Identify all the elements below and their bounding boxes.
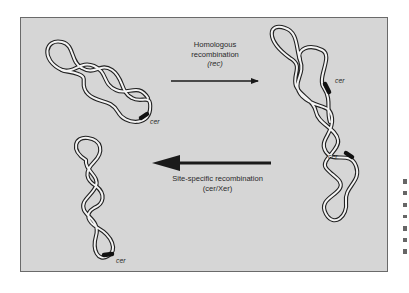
reverse-arrow: [152, 155, 271, 171]
reverse-label-line1: Site-specific recombination: [150, 174, 285, 184]
edge-artifact: [403, 249, 407, 254]
reverse-arrow-label: Site-specific recombination (cer/Xer): [150, 174, 285, 193]
cer-label-dimer-1: cer: [335, 77, 344, 84]
forward-label-line1: Homologous: [170, 40, 260, 50]
supercoiled-monomer-top: [47, 42, 150, 122]
supercoiled-monomer-bottom: [76, 138, 113, 258]
edge-artifact: [403, 238, 407, 242]
reverse-label-line2: (cer/Xer): [150, 184, 285, 194]
cer-label-dimer-2: cer: [328, 153, 337, 160]
edge-artifact: [403, 179, 407, 184]
edge-artifact: [403, 191, 407, 195]
forward-label-line3: (rec): [170, 59, 260, 69]
forward-label-line2: recombination: [170, 50, 260, 60]
forward-arrow-label: Homologous recombination (rec): [170, 40, 260, 69]
edge-artifact: [403, 226, 407, 231]
cer-label-monomer-top: cer: [150, 118, 159, 125]
edge-artifact: [403, 203, 407, 207]
cer-label-monomer-bottom: cer: [116, 257, 125, 264]
edge-artifact: [403, 215, 407, 218]
